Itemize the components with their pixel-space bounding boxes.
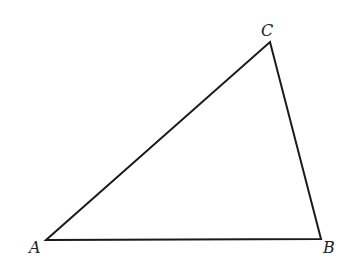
triangle-diagram: A B C xyxy=(0,0,355,277)
vertex-label-c: C xyxy=(261,21,273,40)
vertex-label-a: A xyxy=(27,238,41,257)
triangle-abc xyxy=(46,42,321,240)
vertex-label-b: B xyxy=(322,238,335,257)
